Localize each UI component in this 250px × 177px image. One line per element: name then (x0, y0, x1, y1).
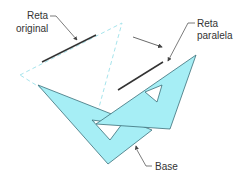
movement-arrow (133, 37, 162, 47)
original-line-leader (50, 16, 77, 40)
label-original-line-1: Reta (27, 10, 49, 21)
moved-set-square (96, 55, 196, 129)
label-parallel-line-2: paralela (197, 30, 233, 41)
label-original-line-2: original (16, 23, 48, 34)
label-base: Base (155, 161, 178, 172)
base-leader (136, 146, 152, 166)
parallel-line-leader (168, 23, 195, 61)
parallel-lines-diagram: Reta original Reta paralela Base (0, 0, 250, 177)
original-line (42, 35, 96, 62)
label-parallel-line-1: Reta (197, 18, 219, 29)
